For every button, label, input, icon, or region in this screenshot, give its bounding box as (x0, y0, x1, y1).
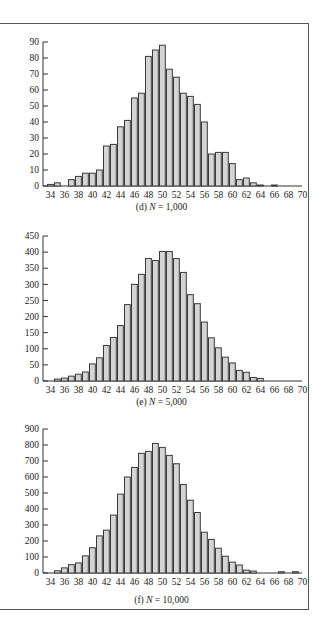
histogram-bar (223, 556, 229, 573)
x-tick-label: 44 (116, 577, 126, 587)
x-tick-label: 34 (46, 577, 56, 587)
x-tick-label: 50 (158, 577, 168, 587)
y-tick-label: 900 (25, 424, 40, 434)
y-tick-label: 500 (25, 488, 40, 498)
histogram-bar (111, 515, 117, 573)
y-tick-label: 400 (25, 504, 40, 514)
histogram-bar (146, 451, 152, 573)
x-tick-label: 68 (284, 577, 294, 587)
x-tick-label: 64 (256, 577, 266, 587)
histogram-bar (174, 464, 180, 573)
x-tick-label: 36 (60, 577, 70, 587)
x-tick-label: 70 (298, 577, 308, 587)
histogram-bar (195, 513, 201, 573)
x-tick-label: 60 (228, 577, 238, 587)
histogram-bar (237, 565, 243, 573)
x-tick-label: 56 (200, 577, 210, 587)
histogram-bar (97, 536, 103, 573)
histogram-bar (139, 453, 145, 573)
x-tick-label: 48 (144, 577, 154, 587)
histogram-bar (90, 548, 96, 573)
x-tick-label: 66 (270, 577, 280, 587)
histogram-bar (230, 562, 236, 573)
histogram-f: 0100200300400500600700800900343638404244… (0, 0, 323, 630)
histogram-bar (83, 556, 89, 573)
histogram-bar (279, 572, 285, 573)
x-tick-label: 58 (214, 577, 224, 587)
histogram-bar (188, 500, 194, 573)
x-tick-label: 46 (130, 577, 140, 587)
y-tick-label: 700 (25, 456, 40, 466)
histogram-bar (132, 467, 138, 573)
histogram-bar (209, 539, 215, 573)
histogram-bar (202, 532, 208, 573)
histogram-bar (125, 477, 131, 573)
caption-f: (f) N = 10,000 (0, 595, 323, 605)
histogram-bar (118, 494, 124, 573)
caption-f-prefix: (f) (134, 595, 146, 605)
y-tick-label: 200 (25, 536, 40, 546)
x-tick-label: 42 (102, 577, 112, 587)
y-tick-label: 300 (25, 520, 40, 530)
x-tick-label: 54 (186, 577, 196, 587)
y-tick-label: 600 (25, 472, 40, 482)
histogram-bar (76, 563, 82, 573)
histogram-bar (181, 485, 187, 573)
histogram-bar (55, 571, 61, 573)
caption-f-value: = 10,000 (152, 595, 188, 605)
y-tick-label: 100 (25, 552, 40, 562)
x-tick-label: 40 (88, 577, 98, 587)
x-tick-label: 62 (242, 577, 252, 587)
histogram-bar (69, 565, 75, 573)
histogram-bar (62, 568, 68, 573)
histogram-bar (293, 572, 299, 573)
histogram-bar (244, 570, 250, 573)
histogram-bar (153, 443, 159, 573)
x-tick-label: 52 (172, 577, 182, 587)
histogram-bar (216, 548, 222, 573)
histogram-bar (160, 447, 166, 573)
histogram-bar (251, 571, 257, 573)
histogram-bar (104, 530, 110, 573)
x-tick-label: 38 (74, 577, 84, 587)
histogram-bar (167, 455, 173, 573)
y-tick-label: 0 (34, 568, 39, 578)
y-tick-label: 800 (25, 440, 40, 450)
